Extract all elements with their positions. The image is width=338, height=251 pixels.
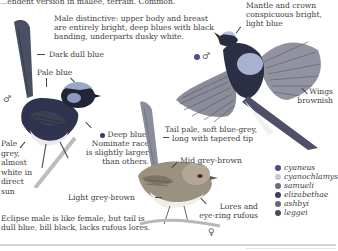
mantle-line-2: conspicuous bright,	[246, 10, 322, 19]
legend-item-samueli: samueli	[275, 181, 338, 190]
light-grey-brown-label: Light grey-brown	[68, 193, 135, 202]
pale-grey-line-6: sun	[1, 187, 32, 197]
pale-blue-label: Pale blue	[37, 68, 72, 77]
eclipse-line-1: Eclipse male is like female, but tail is	[1, 214, 150, 223]
legend-label: cyaneus	[284, 163, 315, 172]
subspecies-legend: cyaneus cyanochlamys samueli elizabethae…	[275, 163, 338, 217]
wings-label: Wings brownish	[290, 87, 333, 105]
wings-line-2: brownish	[290, 96, 333, 105]
tail-line-1: Tail pale, soft blue-grey,	[163, 125, 257, 134]
light-grey-brown-pointer	[155, 197, 162, 198]
dark-dull-blue-label: Dark dull blue	[49, 50, 104, 59]
cyaneus-dot-icon	[275, 165, 281, 171]
legend-item-ashbyi: ashbyi	[275, 199, 338, 208]
elizabethae-dot-icon	[275, 192, 281, 198]
pale-grey-line-4: white in	[1, 168, 32, 178]
male-symbol: ♂	[3, 94, 11, 104]
lores-line-1: Lores and	[192, 202, 258, 211]
legend-label: elizabethae	[284, 190, 328, 199]
mantle-line-1: Mantle and crown	[246, 1, 322, 10]
eclipse-note: Eclipse male is like female, but tail is…	[1, 214, 150, 232]
page-divider	[0, 244, 336, 246]
male-flying-dot-icon	[194, 54, 200, 60]
lores-line-2: eye-ring rufous	[192, 211, 258, 220]
tail-label: Tail pale, soft blue-grey, long with tap…	[163, 125, 257, 143]
legend-item-cyaneus: cyaneus	[275, 163, 338, 172]
legend-label: ashbyi	[284, 199, 309, 208]
lores-label: Lores and eye-ring rufous	[192, 202, 258, 220]
ashbyi-dot-icon	[275, 201, 281, 207]
pale-grey-line-2: grey,	[1, 149, 32, 159]
deep-blue-dot-icon	[100, 133, 105, 138]
samueli-dot-icon	[275, 183, 281, 189]
pale-grey-line-1: Pale	[1, 139, 32, 149]
pale-grey-label: Pale grey, almost white in direct sun	[1, 139, 32, 196]
legend-item-leggei: leggei	[275, 208, 338, 217]
mid-grey-brown-label: Mid grey-brown	[180, 156, 242, 165]
legend-label: leggei	[284, 208, 308, 217]
tail-pointer	[163, 137, 169, 138]
legend-item-elizabethae: elizabethae	[275, 190, 338, 199]
cyanochlamys-dot-icon	[275, 174, 281, 180]
tail-line-2: long with tapered tip	[163, 134, 257, 143]
legend-item-cyanochlamys: cyanochlamys	[275, 172, 338, 181]
female-symbol: ♀	[208, 227, 215, 237]
male-flying-symbol: ♂	[202, 51, 210, 61]
pale-grey-line-3: almost	[1, 158, 32, 168]
pale-grey-line-5: direct	[1, 177, 32, 187]
eclipse-line-2: dull blue, bill black, lacks rufous lore…	[1, 223, 150, 232]
wings-line-1: Wings	[290, 87, 333, 96]
legend-label: cyanochlamys	[284, 172, 338, 181]
pale-blue-pointer	[46, 78, 47, 87]
header-text: ...endent version in mallee, terrain. Co…	[0, 0, 175, 6]
dark-dull-blue-pointer	[37, 54, 45, 55]
tail-text-2: long with tapered tip	[172, 134, 253, 143]
page-divider-secondary	[246, 248, 336, 249]
legend-label: samueli	[284, 181, 314, 190]
leggei-dot-icon	[275, 210, 281, 216]
